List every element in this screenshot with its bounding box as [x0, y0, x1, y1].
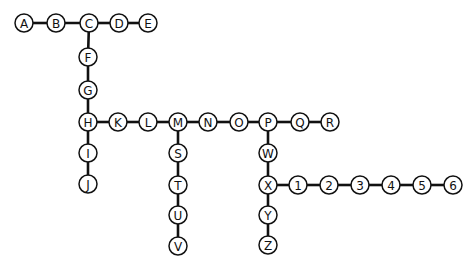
- node-label: 5: [418, 179, 426, 193]
- node-F: F: [79, 48, 97, 66]
- node-label: R: [326, 116, 334, 130]
- node-4: 4: [382, 176, 400, 194]
- node-label: 2: [325, 179, 333, 193]
- node-W: W: [259, 144, 277, 162]
- node-label: 6: [449, 179, 457, 193]
- node-label: L: [145, 116, 152, 130]
- node-label: X: [264, 179, 272, 193]
- node-M: M: [169, 113, 187, 131]
- node-label: I: [86, 147, 90, 161]
- node-label: Y: [263, 209, 272, 223]
- node-G: G: [79, 81, 97, 99]
- node-U: U: [169, 206, 187, 224]
- node-D: D: [110, 14, 128, 32]
- node-5: 5: [413, 176, 431, 194]
- node-label: B: [52, 17, 60, 31]
- node-label: A: [20, 17, 29, 31]
- node-label: W: [262, 147, 274, 161]
- node-K: K: [109, 113, 127, 131]
- node-J: J: [79, 175, 97, 193]
- node-E: E: [139, 14, 157, 32]
- node-6: 6: [444, 176, 462, 194]
- node-label: E: [144, 17, 152, 31]
- node-label: S: [174, 147, 182, 161]
- node-label: P: [264, 116, 271, 130]
- node-label: M: [173, 116, 183, 130]
- node-label: G: [83, 84, 92, 98]
- node-label: V: [174, 240, 183, 254]
- node-Z: Z: [259, 236, 277, 254]
- node-L: L: [139, 113, 157, 131]
- node-1: 1: [289, 176, 307, 194]
- node-label: D: [114, 17, 123, 31]
- node-Q: Q: [291, 113, 309, 131]
- node-R: R: [321, 113, 339, 131]
- node-A: A: [15, 14, 33, 32]
- node-label: U: [174, 209, 183, 223]
- tree-diagram: ABCDEFGHIJKLMNOPQRSTUVWXYZ123456: [0, 0, 473, 273]
- node-label: Z: [264, 239, 272, 253]
- node-label: J: [85, 178, 90, 192]
- node-V: V: [169, 237, 187, 255]
- node-label: T: [173, 179, 182, 193]
- node-label: 3: [356, 179, 364, 193]
- node-X: X: [259, 176, 277, 194]
- node-3: 3: [351, 176, 369, 194]
- node-label: O: [234, 116, 243, 130]
- node-I: I: [79, 144, 97, 162]
- node-B: B: [47, 14, 65, 32]
- node-P: P: [259, 113, 277, 131]
- node-label: N: [204, 116, 213, 130]
- node-label: C: [85, 17, 93, 31]
- node-label: H: [83, 116, 92, 130]
- node-N: N: [199, 113, 217, 131]
- node-2: 2: [320, 176, 338, 194]
- node-T: T: [169, 176, 187, 194]
- node-label: K: [114, 116, 123, 130]
- node-Y: Y: [259, 206, 277, 224]
- node-label: 4: [387, 179, 395, 193]
- node-label: 1: [294, 179, 302, 193]
- node-O: O: [230, 113, 248, 131]
- diagram-canvas: ABCDEFGHIJKLMNOPQRSTUVWXYZ123456: [0, 0, 473, 273]
- nodes-layer: ABCDEFGHIJKLMNOPQRSTUVWXYZ123456: [15, 14, 462, 255]
- node-S: S: [169, 144, 187, 162]
- node-C: C: [80, 14, 98, 32]
- node-label: F: [85, 51, 92, 65]
- node-H: H: [79, 113, 97, 131]
- node-label: Q: [295, 116, 304, 130]
